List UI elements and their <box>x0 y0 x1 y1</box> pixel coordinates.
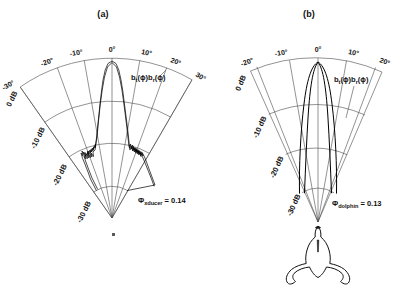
angle-tick-20: 20° <box>170 56 183 66</box>
dolphin-silhouette-icon <box>286 226 349 284</box>
angle-tick--20: -20° <box>40 56 55 67</box>
angle-tick-20: 20° <box>379 56 392 66</box>
scan-artifact-speck <box>112 233 115 236</box>
panel-b: (b) <box>206 0 412 290</box>
radial-tick--20db: -20 dB <box>268 154 286 179</box>
panel-a-grid <box>20 58 192 218</box>
panel-a-beam-label-group: bt(ϕ)br(ϕ) <box>131 70 166 83</box>
panel-b-plot: -20° -10° 0° 10° 20° 0 dB -10 dB -20 dB … <box>206 0 412 290</box>
phi-xducer-label: Φxducer = 0.14 <box>138 196 186 206</box>
panel-a-radial-labels: 0 dB -10 dB -20 dB -30 dB <box>4 89 93 224</box>
radial-tick--20db: -20 dB <box>51 162 69 187</box>
angle-tick-0: 0° <box>315 46 322 53</box>
panel-b-beam-label-group: bt(ϕ)br(ϕ) <box>334 75 369 118</box>
angle-tick-0: 0° <box>109 46 116 53</box>
radial-tick--30db: -30 dB <box>75 199 93 224</box>
radial-tick-0db: 0 dB <box>4 89 19 108</box>
beam-product-label: bt(ϕ)br(ϕ) <box>131 73 166 83</box>
angle-tick--20: -20° <box>240 56 255 67</box>
angle-tick-10: 10° <box>141 48 153 57</box>
radial-tick-0db: 0 dB <box>233 73 248 92</box>
panel-a: (a) <box>0 0 206 290</box>
angle-tick-10: 10° <box>348 48 360 57</box>
beam-product-label: bt(ϕ)br(ϕ) <box>334 75 369 85</box>
angle-tick--30: -30° <box>1 79 16 92</box>
panel-a-plot: -30° -20° -10° 0° 10° 20° 30° 0 dB -10 d… <box>0 0 206 290</box>
figure-container: (a) <box>0 0 412 290</box>
angle-tick--10: -10° <box>274 48 288 57</box>
radial-tick--10db: -10 dB <box>29 125 47 150</box>
phi-dolphin-label: Φdolphin = 0.13 <box>332 199 382 209</box>
angle-tick--10: -10° <box>69 48 83 57</box>
radial-tick--10db: -10 dB <box>251 114 269 139</box>
radial-tick--30db: -30 dB <box>285 192 303 217</box>
panel-a-angle-labels: -30° -20° -10° 0° 10° 20° 30° <box>1 46 208 91</box>
